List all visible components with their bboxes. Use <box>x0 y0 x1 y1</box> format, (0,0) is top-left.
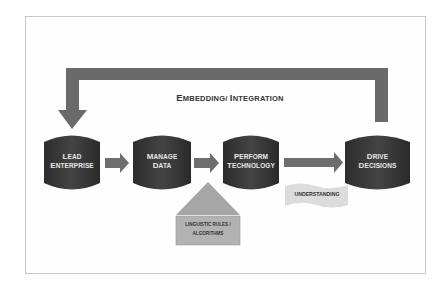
diagram-canvas <box>0 0 448 291</box>
arrow-manage-to-perform <box>194 153 219 173</box>
arrow-perform-to-drive <box>284 152 343 173</box>
arrow-lead-to-manage <box>105 153 129 173</box>
node-label-drive-decisions: DRIVE DECISIONS <box>345 152 410 170</box>
node-label-lead-enterprise: LEAD ENTERPRISE <box>44 152 100 170</box>
banner-label: UNDERSTANDING <box>285 191 349 197</box>
node-label-manage-data: MANAGE DATA <box>133 152 191 170</box>
loop-title: EMBEDDING/ INTEGRATION <box>150 92 310 103</box>
house-label: LINGUISTIC RULES / ALGORITHMS <box>176 220 240 238</box>
node-label-perform-technology: PERFORM TECHNOLOGY <box>223 152 279 170</box>
